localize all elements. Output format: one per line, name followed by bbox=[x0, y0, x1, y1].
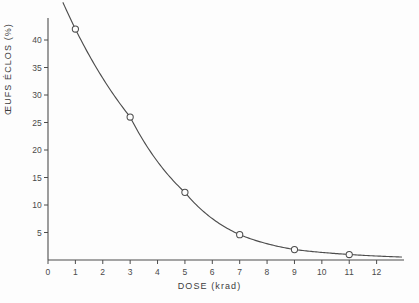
y-axis-tick-label: 25 bbox=[14, 118, 42, 128]
x-axis-tick-label: 8 bbox=[252, 267, 282, 277]
y-axis-tick-label: 20 bbox=[14, 145, 42, 155]
y-axis-tick-label: 5 bbox=[14, 228, 42, 238]
chart-figure: 510152025303540 0123456789101112 DOSE (k… bbox=[0, 0, 419, 303]
x-axis-tick-label: 11 bbox=[334, 267, 364, 277]
data-point-marker bbox=[127, 114, 133, 120]
y-axis-tick-label: 40 bbox=[14, 35, 42, 45]
data-point-marker bbox=[182, 189, 188, 195]
y-axis-title: ŒUFS ÉCLOS (%) bbox=[3, 14, 13, 124]
x-axis-tick-label: 9 bbox=[279, 267, 309, 277]
y-axis-ticks bbox=[44, 40, 48, 233]
x-axis-tick-label: 12 bbox=[362, 267, 392, 277]
data-point-marker bbox=[72, 26, 78, 32]
data-point-markers bbox=[72, 26, 352, 258]
y-axis-tick-label: 30 bbox=[14, 90, 42, 100]
axis-lines bbox=[48, 18, 404, 260]
y-axis-tick-label: 35 bbox=[14, 63, 42, 73]
x-axis-tick-label: 6 bbox=[197, 267, 227, 277]
x-axis-tick-label: 10 bbox=[307, 267, 337, 277]
x-axis-tick-label: 2 bbox=[88, 267, 118, 277]
x-axis-title: DOSE (krad) bbox=[0, 281, 419, 291]
x-axis-tick-label: 3 bbox=[115, 267, 145, 277]
x-axis-tick-label: 5 bbox=[170, 267, 200, 277]
data-curve bbox=[63, 3, 401, 257]
y-axis-tick-label: 10 bbox=[14, 200, 42, 210]
x-axis-tick-label: 0 bbox=[33, 267, 63, 277]
x-axis-tick-label: 1 bbox=[60, 267, 90, 277]
x-axis-tick-label: 7 bbox=[225, 267, 255, 277]
data-point-marker bbox=[346, 251, 352, 257]
x-axis-ticks bbox=[48, 260, 377, 264]
x-axis-tick-label: 4 bbox=[143, 267, 173, 277]
y-axis-tick-label: 15 bbox=[14, 173, 42, 183]
data-point-marker bbox=[291, 246, 297, 252]
plot-area bbox=[0, 0, 419, 303]
data-point-marker bbox=[237, 232, 243, 238]
